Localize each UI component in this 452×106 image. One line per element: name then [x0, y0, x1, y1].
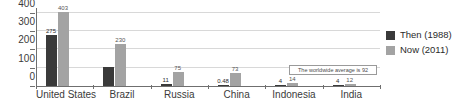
x-axis-categories: United StatesBrazilRussiaChinaIndonesiaI… — [36, 89, 380, 103]
bar-value-label: 73 — [224, 66, 246, 72]
legend-swatch-icon — [386, 46, 395, 55]
bar-then — [103, 67, 114, 86]
bar-then — [218, 85, 229, 86]
legend-item[interactable]: Then (1988) — [386, 30, 450, 40]
bar-group: 0.4873 — [209, 8, 266, 86]
x-axis-tick — [380, 85, 381, 89]
bar-now — [173, 72, 184, 86]
bar-value-label: 14 — [281, 76, 303, 82]
bar-now — [115, 44, 126, 86]
x-axis-label: India — [323, 89, 380, 101]
y-axis: 0100200300400 — [0, 8, 35, 87]
y-axis-tick-label: 300 — [5, 17, 35, 27]
x-axis-label: Brazil — [93, 89, 150, 101]
bar-value-label: 403 — [52, 5, 74, 11]
y-axis-tick — [30, 13, 35, 14]
y-axis-tick-label: 200 — [5, 35, 35, 45]
y-axis-tick — [30, 68, 35, 69]
bar-then — [161, 84, 172, 86]
x-axis-label: Russia — [151, 89, 208, 101]
annotation-callout: The worldwide average is 92 — [289, 65, 377, 75]
x-axis-tick — [36, 85, 37, 89]
x-axis-label: Indonesia — [265, 89, 322, 101]
y-axis-tick — [30, 86, 35, 87]
annotation-text: The worldwide average is 92 — [290, 66, 376, 74]
legend-label: Then (1988) — [400, 30, 452, 40]
y-axis-tick-label: 0 — [5, 72, 35, 82]
legend-label: Now (2011) — [400, 45, 448, 55]
bar-then — [333, 85, 344, 86]
bar-value-label: 12 — [339, 77, 361, 83]
bar-value-label: 75 — [167, 65, 189, 71]
x-axis-label: China — [208, 89, 265, 101]
bar-now — [287, 83, 298, 86]
bar-now — [230, 73, 241, 86]
y-axis-tick — [30, 49, 35, 50]
legend-item[interactable]: Now (2011) — [386, 45, 450, 55]
bar-then — [46, 35, 57, 86]
legend: Then (1988)Now (2011) — [386, 30, 450, 60]
y-axis-tick-label: 400 — [5, 0, 35, 9]
bar-then — [275, 85, 286, 86]
bar-group: 1175 — [152, 8, 209, 86]
y-axis-tick-label: 100 — [5, 54, 35, 64]
y-axis-tick — [30, 31, 35, 32]
bar-value-label: 230 — [109, 37, 131, 43]
x-axis-label: United States — [36, 89, 93, 101]
bar-group: 275403 — [37, 8, 94, 86]
bar-now — [345, 84, 356, 86]
bar-now — [58, 12, 69, 86]
bar-group: 230 — [94, 8, 151, 86]
plot-area: 27540323011750.4873414412 — [36, 8, 380, 87]
legend-swatch-icon — [386, 31, 395, 40]
